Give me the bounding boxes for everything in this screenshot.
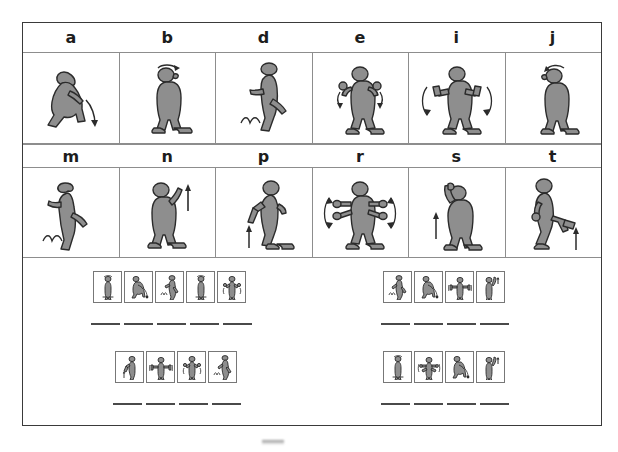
figure-cell-d [216,53,313,143]
key-letter-d: d [216,23,312,52]
answer-blank[interactable] [381,323,410,325]
answer-blank[interactable] [381,403,410,405]
puzzle-1-answer-blanks [89,323,254,325]
answer-blank[interactable] [223,323,252,325]
answer-blank[interactable] [414,403,443,405]
key-figure-row-1 [23,53,601,144]
puzzle-2-picture-4 [476,271,505,303]
weights-figure-icon [415,59,499,137]
key-letter-header-row-2: m n p r s t [23,144,601,168]
key-letter-s: s [408,145,504,167]
answer-blank[interactable] [124,323,153,325]
page-number-smudge [262,440,284,445]
puzzle-3-answer-blanks [111,403,243,405]
key-letter-n: n [119,145,215,167]
puzzle-2 [383,271,511,325]
knee-lift-figure-icon [229,172,299,254]
arm-raised-figure-icon [135,173,199,253]
puzzle-3 [115,351,243,405]
squatting-figure-mini-icon [449,354,471,380]
puzzle-4-picture-3 [445,351,474,383]
squatting-figure-mini-icon [128,274,150,300]
answer-blank[interactable] [447,403,476,405]
figure-cell-j [506,53,602,143]
answer-blank[interactable] [447,323,476,325]
puzzle-4-answer-blanks [379,403,511,405]
hopping-figure-mini-icon [159,274,181,300]
overhead-reach-figure-icon [424,173,490,253]
figure-cell-t [506,168,602,257]
answer-blank[interactable] [212,403,241,405]
arms-wide-swing-figure-icon [316,174,404,252]
figure-cell-a [23,53,120,143]
figure-cell-b [120,53,217,143]
key-letter-t: t [505,145,601,167]
answer-blank[interactable] [480,403,509,405]
squatting-figure-icon [36,58,106,138]
answer-blank[interactable] [414,323,443,325]
figure-cell-p [216,168,313,257]
arms-bent-figure-mini-icon [221,274,243,300]
arm-raised-figure-mini-icon [481,274,501,300]
figure-cell-s [409,168,506,257]
key-letter-header-row-1: a b d e i j [23,23,601,53]
shoulder-circle-figure-icon [324,59,396,137]
puzzle-3-picture-2 [146,351,175,383]
key-letter-r: r [312,145,408,167]
hopping-figure-mini-icon [387,274,409,300]
puzzle-1-picture-2 [124,271,153,303]
worksheet-frame: a b d e i j [22,22,602,426]
figure-cell-e [313,53,410,143]
puzzle-1 [93,271,254,325]
puzzle-3-picture-3 [177,351,206,383]
hopping-figure-mini-icon [212,354,234,380]
leg-kick-figure-icon [516,172,590,254]
squatting-figure-mini-icon [418,274,440,300]
puzzle-1-picture-boxes [93,271,254,303]
key-letter-p: p [216,145,312,167]
puzzle-3-picture-4 [208,351,237,383]
standing-figure-head-turn-icon [136,58,198,138]
puzzle-2-picture-boxes [383,271,511,303]
puzzle-area [23,259,601,425]
key-figure-row-2 [23,168,601,258]
puzzle-3-picture-1 [115,351,144,383]
puzzle-4-picture-4 [476,351,505,383]
jumping-figure-icon [35,173,107,253]
arms-wide-swing-figure-mini-icon [417,354,441,380]
weights-figure-mini-icon [149,354,173,380]
weights-figure-mini-icon [448,274,472,300]
puzzle-2-picture-2 [414,271,443,303]
head-nod-figure-icon [524,58,582,138]
key-letter-m: m [23,145,119,167]
puzzle-1-picture-3 [155,271,184,303]
puzzle-4-picture-boxes [383,351,511,383]
puzzle-4-picture-1 [383,351,412,383]
arms-bent-figure-mini-icon [181,354,203,380]
puzzle-1-picture-1 [93,271,122,303]
puzzle-1-picture-5 [217,271,246,303]
puzzle-2-answer-blanks [379,323,511,325]
arm-raised-figure-mini-icon [481,354,501,380]
standing-figure-mini-icon [192,274,210,300]
answer-blank[interactable] [179,403,208,405]
puzzle-2-picture-3 [445,271,474,303]
answer-blank[interactable] [146,403,175,405]
puzzle-3-picture-boxes [115,351,243,383]
worksheet-page: a b d e i j [0,0,618,452]
key-letter-e: e [312,23,408,52]
figure-cell-i [409,53,506,143]
knee-lift-figure-mini-icon [119,354,141,380]
figure-cell-r [313,168,410,257]
key-letter-a: a [23,23,119,52]
key-letter-i: i [408,23,504,52]
answer-blank[interactable] [480,323,509,325]
answer-blank[interactable] [91,323,120,325]
puzzle-2-picture-1 [383,271,412,303]
answer-blank[interactable] [113,403,142,405]
answer-blank[interactable] [157,323,186,325]
key-letter-j: j [505,23,601,52]
puzzle-1-picture-4 [186,271,215,303]
answer-blank[interactable] [190,323,219,325]
hopping-figure-icon [229,57,299,139]
